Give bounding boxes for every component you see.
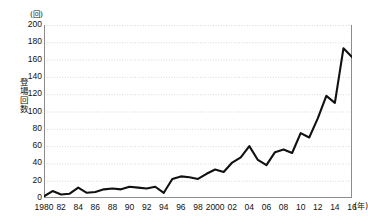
x-tick-label: 92 (142, 202, 151, 212)
x-tick-label: 96 (176, 202, 185, 212)
y-tick-label: 100 (16, 107, 42, 116)
x-tick-label: 06 (262, 202, 271, 212)
y-tick-label: 60 (16, 141, 42, 150)
x-tick-label: 08 (279, 202, 288, 212)
x-tick-label: 84 (73, 202, 82, 212)
y-tick-label: 180 (16, 37, 42, 46)
x-tick-label: 86 (91, 202, 100, 212)
x-tick-label: 02 (227, 202, 236, 212)
y-tick-label: 160 (16, 55, 42, 64)
x-tick-label: 10 (296, 202, 305, 212)
x-tick-label: 90 (125, 202, 134, 212)
y-tick-label: 40 (16, 158, 42, 167)
x-tick-label: 98 (193, 202, 202, 212)
x-tick-label: 1980 (35, 202, 54, 212)
x-tick-label: 04 (245, 202, 254, 212)
x-tick-label: 14 (330, 202, 339, 212)
data-series-line (44, 48, 352, 196)
x-tick-label: 82 (56, 202, 65, 212)
gridlines (44, 26, 352, 182)
x-tick-label: 12 (313, 202, 322, 212)
line-chart-svg (44, 25, 352, 198)
x-axis-tick-labels: 1980828486889092949698200002040608101214… (0, 202, 366, 216)
x-tick-label: 94 (159, 202, 168, 212)
y-tick-label: 200 (16, 20, 42, 29)
y-tick-label: 120 (16, 89, 42, 98)
y-axis-tick-labels: 200180160140120100806040200 (12, 0, 42, 224)
y-tick-label: 0 (16, 193, 42, 202)
y-tick-label: 80 (16, 124, 42, 133)
plot-area (44, 25, 352, 198)
y-tick-label: 20 (16, 176, 42, 185)
y-tick-label: 140 (16, 72, 42, 81)
x-tick-label: 88 (108, 202, 117, 212)
x-axis-unit-label: (年) (354, 202, 368, 212)
x-tick-label: 2000 (206, 202, 225, 212)
